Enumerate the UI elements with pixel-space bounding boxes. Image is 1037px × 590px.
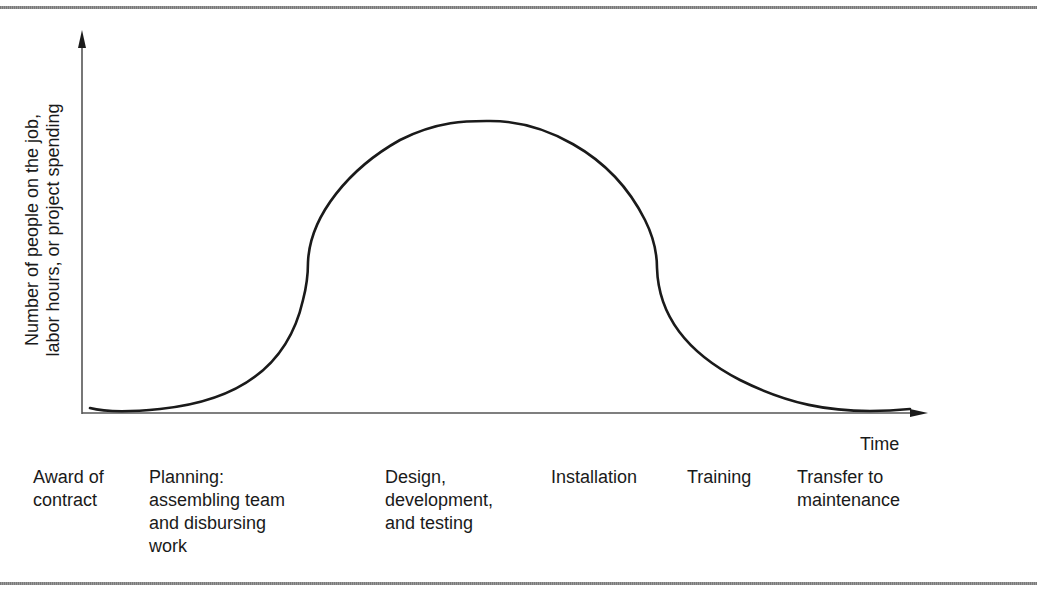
phase-label-line: assembling team bbox=[149, 489, 285, 512]
phase-label-line: development, bbox=[385, 489, 493, 512]
lifecycle-curve bbox=[90, 121, 910, 411]
phase-label-line: maintenance bbox=[797, 489, 900, 512]
x-axis-arrow-icon bbox=[910, 409, 928, 417]
phase-installation: Installation bbox=[551, 466, 637, 489]
phase-transfer-to-maintenance: Transfer to maintenance bbox=[797, 466, 900, 512]
bottom-border-rule bbox=[0, 582, 1037, 585]
phase-label-line: Transfer to bbox=[797, 466, 900, 489]
y-axis-label: Number of people on the job, labor hours… bbox=[22, 60, 68, 400]
phase-label-line: Design, bbox=[385, 466, 493, 489]
x-axis-label: Time bbox=[860, 434, 899, 455]
phase-label-line: contract bbox=[33, 489, 104, 512]
phase-training: Training bbox=[687, 466, 751, 489]
phase-label-line: and testing bbox=[385, 512, 493, 535]
phase-label-line: Installation bbox=[551, 466, 637, 489]
phase-label-line: and disbursing bbox=[149, 512, 285, 535]
phase-planning: Planning: assembling team and disbursing… bbox=[149, 466, 285, 558]
phase-label-line: work bbox=[149, 535, 285, 558]
phase-design-development-testing: Design, development, and testing bbox=[385, 466, 493, 535]
y-axis-arrow-icon bbox=[78, 30, 86, 48]
y-axis-label-line2: labor hours, or project spending bbox=[43, 60, 64, 400]
phase-label-line: Planning: bbox=[149, 466, 285, 489]
phase-award-of-contract: Award of contract bbox=[33, 466, 104, 512]
phase-label-line: Training bbox=[687, 466, 751, 489]
phase-label-line: Award of bbox=[33, 466, 104, 489]
y-axis-label-line1: Number of people on the job, bbox=[22, 60, 43, 400]
